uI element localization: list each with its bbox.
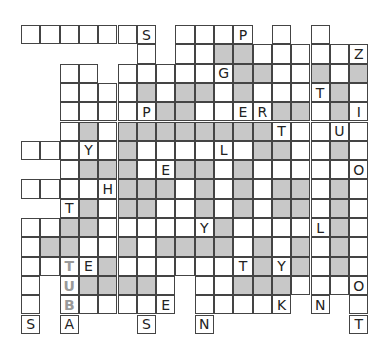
empty-cell[interactable] xyxy=(175,64,194,83)
empty-cell[interactable] xyxy=(98,25,117,44)
letter-cell[interactable]: S xyxy=(137,315,156,334)
empty-cell[interactable] xyxy=(253,179,272,198)
empty-cell[interactable] xyxy=(272,44,291,63)
letter-cell[interactable]: P xyxy=(233,25,252,44)
letter-cell[interactable]: I xyxy=(349,102,368,121)
empty-cell[interactable] xyxy=(349,257,368,276)
empty-cell[interactable] xyxy=(98,218,117,237)
empty-cell[interactable] xyxy=(195,257,214,276)
empty-cell[interactable] xyxy=(195,295,214,314)
empty-cell[interactable] xyxy=(175,199,194,218)
letter-cell[interactable]: L xyxy=(214,141,233,160)
empty-cell[interactable] xyxy=(21,295,40,314)
empty-cell[interactable] xyxy=(137,64,156,83)
empty-cell[interactable] xyxy=(175,44,194,63)
empty-cell[interactable] xyxy=(311,122,330,141)
empty-cell[interactable] xyxy=(195,102,214,121)
empty-cell[interactable] xyxy=(349,122,368,141)
empty-cell[interactable] xyxy=(98,237,117,256)
empty-cell[interactable] xyxy=(60,122,79,141)
empty-cell[interactable] xyxy=(137,295,156,314)
empty-cell[interactable] xyxy=(118,257,137,276)
empty-cell[interactable] xyxy=(272,25,291,44)
letter-cell[interactable]: T xyxy=(233,257,252,276)
empty-cell[interactable] xyxy=(214,25,233,44)
empty-cell[interactable] xyxy=(253,44,272,63)
empty-cell[interactable] xyxy=(330,44,349,63)
empty-cell[interactable] xyxy=(175,141,194,160)
empty-cell[interactable] xyxy=(214,102,233,121)
letter-cell[interactable]: K xyxy=(272,295,291,314)
hint-letter-cell[interactable]: B xyxy=(60,295,79,314)
empty-cell[interactable] xyxy=(156,83,175,102)
empty-cell[interactable] xyxy=(253,83,272,102)
empty-cell[interactable] xyxy=(156,257,175,276)
letter-cell[interactable]: L xyxy=(311,218,330,237)
empty-cell[interactable] xyxy=(330,276,349,295)
empty-cell[interactable] xyxy=(253,199,272,218)
empty-cell[interactable] xyxy=(311,25,330,44)
empty-cell[interactable] xyxy=(349,83,368,102)
empty-cell[interactable] xyxy=(137,160,156,179)
empty-cell[interactable] xyxy=(214,276,233,295)
empty-cell[interactable] xyxy=(21,141,40,160)
letter-cell[interactable]: S xyxy=(137,25,156,44)
empty-cell[interactable] xyxy=(349,218,368,237)
empty-cell[interactable] xyxy=(311,160,330,179)
empty-cell[interactable] xyxy=(195,25,214,44)
letter-cell[interactable]: N xyxy=(195,315,214,334)
empty-cell[interactable] xyxy=(118,295,137,314)
letter-cell[interactable]: N xyxy=(311,295,330,314)
empty-cell[interactable] xyxy=(98,83,117,102)
empty-cell[interactable] xyxy=(272,160,291,179)
empty-cell[interactable] xyxy=(156,276,175,295)
empty-cell[interactable] xyxy=(330,160,349,179)
letter-cell[interactable]: T xyxy=(311,83,330,102)
empty-cell[interactable] xyxy=(272,83,291,102)
empty-cell[interactable] xyxy=(79,179,98,198)
empty-cell[interactable] xyxy=(98,102,117,121)
empty-cell[interactable] xyxy=(349,179,368,198)
empty-cell[interactable] xyxy=(118,218,137,237)
empty-cell[interactable] xyxy=(349,237,368,256)
letter-cell[interactable]: R xyxy=(253,102,272,121)
letter-cell[interactable]: E xyxy=(156,295,175,314)
empty-cell[interactable] xyxy=(291,83,310,102)
empty-cell[interactable] xyxy=(291,160,310,179)
empty-cell[interactable] xyxy=(60,64,79,83)
letter-cell[interactable]: P xyxy=(137,102,156,121)
empty-cell[interactable] xyxy=(214,295,233,314)
empty-cell[interactable] xyxy=(311,257,330,276)
letter-cell[interactable]: S xyxy=(21,315,40,334)
empty-cell[interactable] xyxy=(137,141,156,160)
empty-cell[interactable] xyxy=(40,179,59,198)
empty-cell[interactable] xyxy=(60,102,79,121)
empty-cell[interactable] xyxy=(311,199,330,218)
empty-cell[interactable] xyxy=(118,83,137,102)
empty-cell[interactable] xyxy=(311,102,330,121)
empty-cell[interactable] xyxy=(98,199,117,218)
empty-cell[interactable] xyxy=(272,64,291,83)
empty-cell[interactable] xyxy=(291,64,310,83)
letter-cell[interactable]: Y xyxy=(79,141,98,160)
hint-letter-cell[interactable]: T xyxy=(60,257,79,276)
empty-cell[interactable] xyxy=(40,25,59,44)
empty-cell[interactable] xyxy=(60,83,79,102)
letter-cell[interactable]: A xyxy=(60,315,79,334)
empty-cell[interactable] xyxy=(253,218,272,237)
empty-cell[interactable] xyxy=(137,218,156,237)
empty-cell[interactable] xyxy=(21,25,40,44)
letter-cell[interactable]: Y xyxy=(195,218,214,237)
empty-cell[interactable] xyxy=(349,141,368,160)
empty-cell[interactable] xyxy=(40,257,59,276)
empty-cell[interactable] xyxy=(98,122,117,141)
empty-cell[interactable] xyxy=(349,295,368,314)
empty-cell[interactable] xyxy=(118,64,137,83)
empty-cell[interactable] xyxy=(21,257,40,276)
empty-cell[interactable] xyxy=(253,160,272,179)
letter-cell[interactable]: H xyxy=(98,179,117,198)
empty-cell[interactable] xyxy=(233,295,252,314)
empty-cell[interactable] xyxy=(79,83,98,102)
empty-cell[interactable] xyxy=(233,237,252,256)
empty-cell[interactable] xyxy=(137,257,156,276)
